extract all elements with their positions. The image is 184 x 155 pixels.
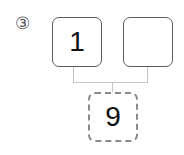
connector-horizontal-line (73, 82, 148, 83)
connector-left-line (73, 67, 74, 82)
top-right-answer-box[interactable] (123, 17, 173, 67)
connector-right-line (147, 67, 148, 82)
problem-number-label: ③ (15, 14, 30, 34)
top-left-number-box: 1 (52, 17, 102, 67)
bottom-total-value: 9 (105, 101, 121, 133)
bottom-total-box: 9 (88, 92, 138, 142)
connector-middle-line (112, 82, 113, 92)
top-left-value: 1 (69, 26, 85, 58)
